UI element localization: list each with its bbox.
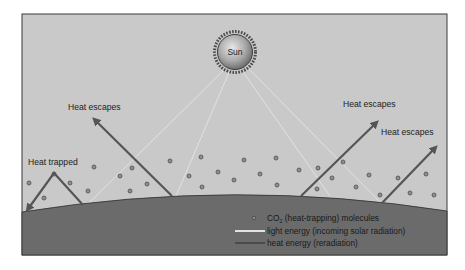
co2-molecule-icon — [200, 185, 204, 189]
co2-molecule-icon — [424, 172, 428, 176]
heat-escapes-right-lower-label: Heat escapes — [381, 127, 434, 137]
co2-molecule-icon — [145, 182, 149, 186]
co2-molecule-icon — [187, 174, 191, 178]
co2-molecule-icon — [315, 187, 319, 191]
co2-molecule-icon — [27, 181, 31, 185]
co2-molecule-icon — [396, 176, 400, 180]
co2-molecule-icon — [130, 166, 134, 170]
co2-molecule-icon — [252, 216, 256, 220]
heat-escapes-right-upper-label: Heat escapes — [343, 99, 396, 109]
legend-heat-energy: heat energy (reradiation) — [267, 238, 358, 248]
co2-molecule-icon — [330, 176, 334, 180]
co2-molecule-icon — [408, 191, 412, 195]
co2-molecule-icon — [275, 183, 279, 187]
heat-trapped-label: Heat trapped — [28, 157, 78, 167]
co2-molecule-icon — [128, 189, 132, 193]
co2-molecule-icon — [432, 193, 436, 197]
co2-molecule-icon — [354, 185, 358, 189]
co2-molecule-icon — [274, 156, 278, 160]
co2-molecule-icon — [92, 165, 96, 169]
co2-molecule-icon — [199, 155, 203, 159]
co2-molecule-icon — [367, 173, 371, 177]
co2-molecule-icon — [341, 160, 345, 164]
co2-molecule-icon — [118, 174, 122, 178]
co2-molecule-icon — [68, 181, 72, 185]
co2-molecule-icon — [216, 170, 220, 174]
co2-molecule-icon — [232, 178, 236, 182]
co2-molecule-icon — [42, 196, 46, 200]
co2-molecule-icon — [378, 193, 382, 197]
heat-escapes-left-label: Heat escapes — [68, 102, 121, 112]
co2-molecule-icon — [297, 168, 301, 172]
earth-ground — [22, 195, 447, 255]
legend-co2: CO2 (heat-trapping) molecules — [267, 213, 379, 224]
co2-molecule-icon — [86, 189, 90, 193]
legend-light-energy: light energy (incoming solar radiation) — [267, 226, 406, 236]
co2-molecule-icon — [316, 166, 320, 170]
greenhouse-effect-diagram: Sun Heat trapped Heat escapes Heat escap… — [0, 0, 465, 270]
co2-molecule-icon — [242, 158, 246, 162]
co2-molecule-icon — [258, 172, 262, 176]
sun-label: Sun — [227, 47, 242, 57]
co2-molecule-icon — [168, 159, 172, 163]
